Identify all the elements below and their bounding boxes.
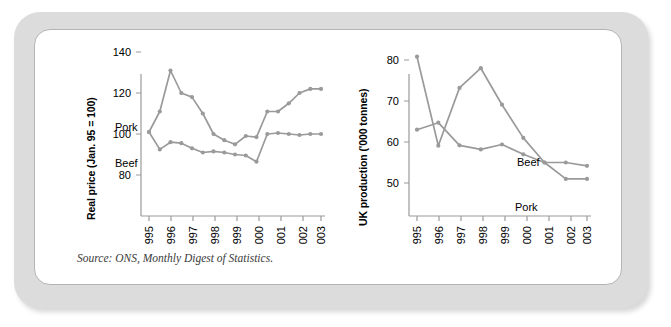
data-point bbox=[319, 87, 323, 91]
left-x-tick-2000: 2000 bbox=[253, 226, 265, 244]
data-point bbox=[211, 149, 215, 153]
data-point bbox=[415, 55, 419, 59]
data-point bbox=[244, 134, 248, 138]
right-y-tick-50: 50 bbox=[387, 177, 399, 189]
data-point bbox=[415, 128, 419, 132]
right-plot-area: 80 70 60 50 1995 1996 1997 bbox=[353, 30, 608, 244]
data-point bbox=[147, 130, 151, 134]
right-x-tick-1996: 1996 bbox=[433, 226, 445, 244]
right-series-group bbox=[415, 55, 589, 181]
data-point bbox=[211, 132, 215, 136]
data-point bbox=[222, 150, 226, 154]
data-point bbox=[479, 66, 483, 70]
right-x-tick-1998: 1998 bbox=[477, 226, 489, 244]
data-point bbox=[254, 135, 258, 139]
data-point bbox=[308, 87, 312, 91]
figure-panel: Real price (Jan. 95 = 100) 140 120 100 8… bbox=[34, 29, 622, 285]
data-point bbox=[233, 152, 237, 156]
data-point bbox=[564, 160, 568, 164]
right-x-tick-1997: 1997 bbox=[455, 226, 467, 244]
left-label-pork: Pork bbox=[115, 121, 138, 133]
right-x-tick-1995: 1995 bbox=[411, 226, 423, 244]
left-x-tick-2003: 2003 bbox=[315, 226, 327, 244]
data-point bbox=[276, 131, 280, 135]
right-x-tick-2000: 2000 bbox=[521, 226, 533, 244]
data-point bbox=[436, 144, 440, 148]
data-point bbox=[297, 133, 301, 137]
data-point bbox=[479, 147, 483, 151]
data-point bbox=[585, 164, 589, 168]
left-y-tick-80: 80 bbox=[119, 169, 131, 181]
data-point bbox=[500, 103, 504, 107]
left-y-tick-120: 120 bbox=[113, 87, 131, 99]
data-point bbox=[190, 95, 194, 99]
chart-right-uk-production: UK production ('000 tonnes) 80 70 60 50 bbox=[353, 30, 608, 244]
left-x-ticks bbox=[149, 216, 321, 221]
data-point bbox=[585, 177, 589, 181]
data-point bbox=[179, 141, 183, 145]
data-point bbox=[265, 132, 269, 136]
left-label-beef: Beef bbox=[115, 157, 139, 169]
right-x-tick-2002: 2002 bbox=[565, 226, 577, 244]
data-point bbox=[265, 109, 269, 113]
right-x-ticks bbox=[417, 216, 587, 221]
data-line-pork bbox=[417, 57, 587, 179]
data-point bbox=[457, 143, 461, 147]
data-point bbox=[542, 160, 546, 164]
right-y-tick-80: 80 bbox=[387, 54, 399, 66]
data-point bbox=[168, 68, 172, 72]
data-point bbox=[233, 142, 237, 146]
left-x-tick-1997: 1997 bbox=[187, 226, 199, 244]
right-x-tick-1999: 1999 bbox=[499, 226, 511, 244]
data-point bbox=[287, 132, 291, 136]
source-note: Source: ONS, Monthly Digest of Statistic… bbox=[77, 252, 273, 264]
data-point bbox=[222, 138, 226, 142]
data-point bbox=[158, 147, 162, 151]
right-x-tick-2001: 2001 bbox=[543, 226, 555, 244]
right-x-tick-2003: 2003 bbox=[581, 226, 593, 244]
data-point bbox=[521, 136, 525, 140]
right-y-ticks bbox=[404, 60, 409, 183]
data-point bbox=[276, 109, 280, 113]
data-point bbox=[457, 86, 461, 90]
left-x-tick-2002: 2002 bbox=[297, 226, 309, 244]
data-point bbox=[244, 153, 248, 157]
figure-frame: Real price (Jan. 95 = 100) 140 120 100 8… bbox=[14, 12, 648, 308]
data-point bbox=[436, 121, 440, 125]
data-point bbox=[168, 140, 172, 144]
data-point bbox=[297, 91, 301, 95]
left-x-tick-1995: 1995 bbox=[143, 226, 155, 244]
data-point bbox=[158, 109, 162, 113]
left-plot-area: 140 120 100 80 1995 1996 bbox=[73, 30, 341, 244]
left-y-tick-140: 140 bbox=[113, 46, 131, 58]
data-point bbox=[254, 160, 258, 164]
right-label-pork: Pork bbox=[515, 201, 538, 213]
data-point bbox=[190, 146, 194, 150]
data-line-beef bbox=[149, 132, 321, 162]
right-y-tick-70: 70 bbox=[387, 95, 399, 107]
left-x-tick-1999: 1999 bbox=[231, 226, 243, 244]
left-x-tick-1998: 1998 bbox=[209, 226, 221, 244]
data-point bbox=[319, 132, 323, 136]
right-label-beef: Beef bbox=[517, 156, 541, 168]
chart-left-real-price: Real price (Jan. 95 = 100) 140 120 100 8… bbox=[73, 30, 341, 244]
data-line-pork bbox=[149, 71, 321, 145]
data-point bbox=[564, 177, 568, 181]
data-point bbox=[308, 132, 312, 136]
data-point bbox=[179, 91, 183, 95]
left-x-tick-2001: 2001 bbox=[275, 226, 287, 244]
data-point bbox=[201, 111, 205, 115]
data-point bbox=[287, 101, 291, 105]
left-x-tick-1996: 1996 bbox=[165, 226, 177, 244]
data-point bbox=[201, 150, 205, 154]
right-y-tick-60: 60 bbox=[387, 136, 399, 148]
left-series-group bbox=[147, 68, 323, 163]
data-point bbox=[500, 142, 504, 146]
